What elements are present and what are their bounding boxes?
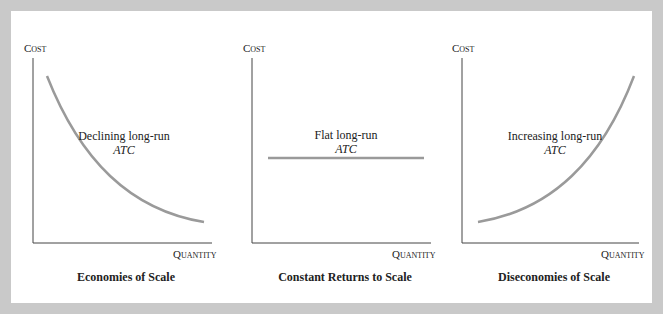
panel-2-curve-label: Flat long-run ATC bbox=[315, 128, 378, 156]
panel-1-y-axis-label: Cost bbox=[24, 42, 46, 54]
curve-label-text: Increasing long-run bbox=[508, 129, 602, 143]
panel-1-curve-label: Declining long-run ATC bbox=[78, 129, 170, 157]
diagram-graphics bbox=[0, 0, 663, 314]
panel-1-title: Economies of Scale bbox=[77, 270, 175, 285]
panel-2-title: Constant Returns to Scale bbox=[278, 270, 412, 285]
panel-3-title: Diseconomies of Scale bbox=[498, 270, 610, 285]
curve-label-atc: ATC bbox=[315, 142, 378, 156]
panel-3-x-axis-label: Quantity bbox=[601, 248, 645, 260]
panel-3-y-axis-label: Cost bbox=[452, 42, 474, 54]
panel-2-y-axis-label: Cost bbox=[243, 42, 265, 54]
curve-label-text: Flat long-run bbox=[315, 128, 378, 142]
panel-2-x-axis-label: Quantity bbox=[392, 248, 436, 260]
curve-label-atc: ATC bbox=[508, 143, 602, 157]
panel-3-curve-label: Increasing long-run ATC bbox=[508, 129, 602, 157]
curve-label-text: Declining long-run bbox=[78, 129, 170, 143]
curve-label-atc: ATC bbox=[78, 143, 170, 157]
panel-1-x-axis-label: Quantity bbox=[173, 248, 217, 260]
